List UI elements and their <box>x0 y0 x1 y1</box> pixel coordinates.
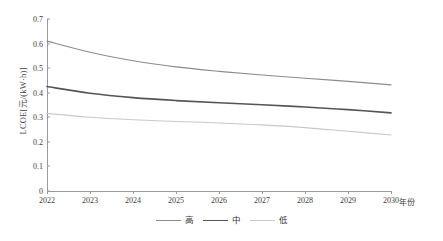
chart-figure: LCOE[元/(kW·h)] 00.10.20.30.40.50.60.7 20… <box>0 0 443 241</box>
legend-swatch <box>203 220 228 221</box>
x-tick-mark <box>391 191 392 194</box>
legend-item[interactable]: 低 <box>250 216 288 225</box>
legend-label: 高 <box>185 216 194 225</box>
x-tick-mark <box>176 191 177 194</box>
y-tick-label: 0.3 <box>33 113 47 122</box>
y-tick-label: 0.4 <box>33 88 47 97</box>
y-tick-label: 0.2 <box>33 137 47 146</box>
y-tick-label: 0.7 <box>33 15 47 24</box>
y-tick-label: 0.5 <box>33 64 47 73</box>
x-tick-label: 2028 <box>297 196 313 205</box>
legend-label: 低 <box>279 216 288 225</box>
y-tick-label: 0.1 <box>33 162 47 171</box>
legend-item[interactable]: 高 <box>156 216 194 225</box>
y-tick-label: 0.6 <box>33 39 47 48</box>
x-tick-label: 2026 <box>211 196 227 205</box>
series-line-高 <box>47 41 391 85</box>
x-tick-label: 2027 <box>254 196 270 205</box>
legend-swatch <box>250 220 275 221</box>
legend-item[interactable]: 中 <box>203 216 241 225</box>
x-tick-label: 2030 <box>383 196 399 205</box>
series-line-低 <box>47 113 391 135</box>
x-tick-mark <box>305 191 306 194</box>
chart-legend: 高中低 <box>0 216 443 225</box>
x-tick-mark <box>219 191 220 194</box>
y-axis-title: LCOE[元/(kW·h)] <box>16 21 28 181</box>
x-tick-mark <box>90 191 91 194</box>
x-axis-title: 年份 <box>399 196 415 207</box>
x-tick-label: 2023 <box>82 196 98 205</box>
x-tick-label: 2022 <box>39 196 55 205</box>
x-tick-mark <box>133 191 134 194</box>
legend-swatch <box>156 220 181 221</box>
series-lines <box>47 19 391 191</box>
x-tick-mark <box>348 191 349 194</box>
y-tick-label: 0 <box>39 187 47 196</box>
x-tick-label: 2024 <box>125 196 141 205</box>
legend-label: 中 <box>232 216 241 225</box>
plot-area: 00.10.20.30.40.50.60.7 20222023202420252… <box>47 19 391 191</box>
x-tick-mark <box>262 191 263 194</box>
series-line-中 <box>47 87 391 113</box>
x-tick-label: 2029 <box>340 196 356 205</box>
x-tick-mark <box>47 191 48 194</box>
x-tick-label: 2025 <box>168 196 184 205</box>
